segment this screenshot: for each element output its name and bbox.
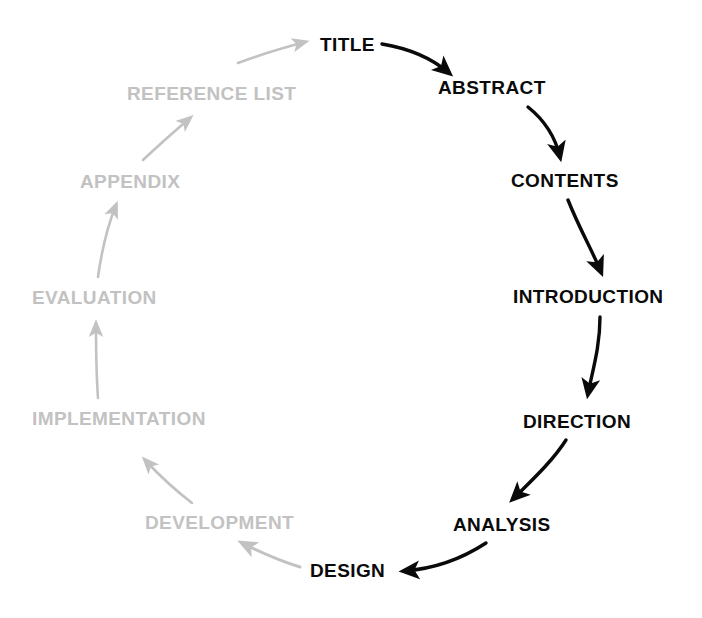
edge-development-implementation <box>145 460 192 503</box>
edge-introduction-direction <box>588 317 600 394</box>
edge-analysis-design <box>404 543 486 571</box>
node-development[interactable]: DEVELOPMENT <box>145 513 294 533</box>
node-implementation[interactable]: IMPLEMENTATION <box>32 409 206 429</box>
edge-evaluation-appendix <box>98 205 116 277</box>
node-reference-list[interactable]: REFERENCE LIST <box>127 84 296 104</box>
node-title[interactable]: TITLE <box>320 35 375 55</box>
node-design[interactable]: DESIGN <box>310 561 385 581</box>
node-appendix[interactable]: APPENDIX <box>80 172 180 192</box>
node-contents[interactable]: CONTENTS <box>511 171 619 191</box>
node-abstract[interactable]: ABSTRACT <box>438 78 546 98</box>
node-introduction[interactable]: INTRODUCTION <box>513 287 663 307</box>
edge-reference-list-title <box>238 42 305 63</box>
node-direction[interactable]: DIRECTION <box>523 412 631 432</box>
node-analysis[interactable]: ANALYSIS <box>453 515 551 535</box>
edge-design-development <box>242 543 300 567</box>
edge-contents-introduction <box>568 200 601 272</box>
edge-appendix-reference-list <box>143 118 190 160</box>
edge-implementation-evaluation <box>96 324 98 398</box>
edge-abstract-contents <box>528 107 560 157</box>
edge-direction-analysis <box>513 440 566 499</box>
arrow-layer <box>0 0 702 618</box>
edge-title-abstract <box>382 44 449 73</box>
node-evaluation[interactable]: EVALUATION <box>32 288 157 308</box>
diagram-canvas: TITLE ABSTRACT CONTENTS INTRODUCTION DIR… <box>0 0 702 618</box>
